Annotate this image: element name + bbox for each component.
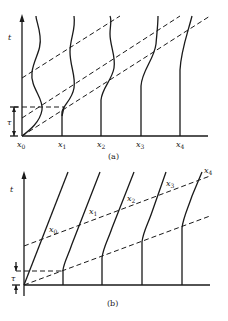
svg-text:x3: x3 bbox=[136, 140, 145, 150]
svg-text:x0: x0 bbox=[17, 140, 26, 150]
signal-line-3-a bbox=[22, 16, 120, 78]
t-axis-arrow-icon bbox=[22, 171, 27, 179]
caption-a: (a) bbox=[108, 152, 119, 161]
position-labels-a: x0 x1 x2 x3 x4 bbox=[17, 140, 185, 150]
svg-text:x1: x1 bbox=[58, 140, 66, 150]
svg-text:x2: x2 bbox=[97, 140, 106, 150]
worldline-x3-a bbox=[141, 16, 158, 136]
tau-arrow-down-icon bbox=[14, 266, 18, 271]
worldline-x1-b bbox=[63, 172, 100, 285]
svg-text:x3: x3 bbox=[166, 179, 175, 189]
tau-arrow-up-icon bbox=[12, 107, 16, 112]
tau-label-b: τ bbox=[11, 274, 16, 283]
worldline-x4-a bbox=[180, 16, 192, 136]
panel-a: t τ x0 x1 x2 x3 x4 (a) bbox=[7, 14, 210, 161]
svg-text:x2: x2 bbox=[127, 194, 136, 204]
worldline-x3-b bbox=[142, 172, 166, 285]
worldline-x0-b bbox=[24, 172, 68, 285]
worldline-x4-b bbox=[182, 172, 202, 285]
tau-arrow-up-icon bbox=[14, 285, 18, 290]
worldline-x2-a bbox=[101, 16, 114, 136]
panel-b: t τ x0 x1 x2 x3 x4 (b) bbox=[10, 166, 213, 308]
figure-canvas: t τ x0 x1 x2 x3 x4 (a) bbox=[0, 0, 228, 321]
caption-b: (b) bbox=[107, 299, 118, 308]
worldline-x1-a bbox=[62, 16, 74, 136]
t-label-b: t bbox=[10, 185, 14, 194]
svg-text:x4: x4 bbox=[204, 166, 213, 176]
svg-text:x0: x0 bbox=[49, 225, 58, 235]
tau-arrow-down-icon bbox=[12, 131, 16, 136]
svg-text:x1: x1 bbox=[89, 207, 97, 217]
worldline-x2-b bbox=[102, 172, 134, 285]
t-label-a: t bbox=[8, 33, 12, 42]
signal-line-1-a bbox=[22, 16, 210, 136]
svg-text:x4: x4 bbox=[176, 140, 185, 150]
t-axis-arrow-icon bbox=[20, 14, 25, 22]
tau-label-a: τ bbox=[7, 118, 12, 127]
position-labels-b: x0 x1 x2 x3 x4 bbox=[49, 166, 213, 235]
